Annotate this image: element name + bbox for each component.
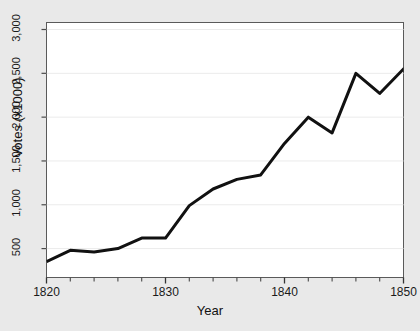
x-tick-marks-group <box>47 278 404 284</box>
y-tick-label: 3,000 <box>10 5 22 51</box>
chart-figure: 5001,0001,5002,0002,5003,000 18201830184… <box>0 0 420 331</box>
y-tick-marks-group <box>42 30 47 249</box>
x-tick-label: 1830 <box>136 285 196 299</box>
gridlines-group <box>47 30 404 249</box>
x-tick-label: 1850 <box>374 285 420 299</box>
y-axis-title: Votes (x1000) <box>10 63 25 173</box>
x-tick-label: 1820 <box>17 285 77 299</box>
chart-canvas <box>0 0 420 331</box>
x-axis-title: Year <box>0 303 420 318</box>
x-tick-label: 1840 <box>255 285 315 299</box>
data-line-group <box>47 69 416 262</box>
y-tick-label: 1,000 <box>10 180 22 226</box>
votes-series-line <box>47 69 416 262</box>
y-tick-label: 500 <box>10 224 22 270</box>
